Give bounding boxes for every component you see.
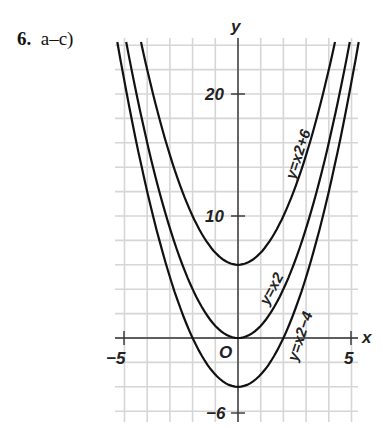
tick-label-20: 20	[204, 85, 224, 104]
origin-label: O	[219, 343, 232, 362]
parabola-chart: y x O −5 5 20 10 −6 y=x2+6 y=x2 y=x2−4	[0, 0, 387, 428]
tick-label-neg6: −6	[206, 404, 226, 423]
tick-label-10: 10	[205, 207, 224, 226]
curve-label-x2-plus-6: y=x2+6	[281, 127, 313, 182]
curve-label-x2-minus-4: y=x2−4	[283, 309, 315, 364]
tick-label-neg5: −5	[106, 349, 126, 368]
x-axis-label: x	[361, 328, 373, 347]
tick-label-5: 5	[344, 349, 354, 368]
y-axis-label: y	[230, 17, 242, 36]
